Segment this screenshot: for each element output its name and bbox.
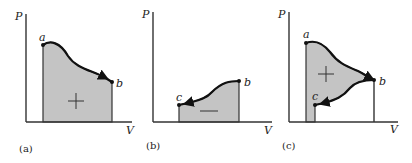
point-c-label: c — [176, 91, 182, 104]
caption-a: (a) — [19, 143, 33, 154]
point-c — [313, 103, 317, 107]
panel-a: P V a b (a) — [14, 10, 135, 154]
panel-b: P V c b (b) — [141, 8, 273, 151]
caption-c: (c) — [282, 140, 296, 151]
point-b-label: b — [244, 76, 251, 89]
point-a — [304, 41, 308, 45]
panel-c: P V a b c (c) — [277, 8, 399, 151]
p-axis-label: P — [141, 8, 150, 21]
point-b — [237, 79, 241, 83]
p-axis-label: P — [14, 10, 23, 23]
point-a-label: a — [39, 31, 46, 44]
caption-b: (b) — [146, 140, 160, 151]
point-b — [110, 80, 114, 84]
point-a-label: a — [303, 28, 310, 41]
p-axis-label: P — [277, 8, 286, 21]
point-b-label: b — [116, 77, 123, 90]
point-b — [372, 78, 376, 82]
point-c-label: c — [312, 90, 318, 103]
pv-diagrams: P V a b (a) P V c b (b) P — [0, 0, 412, 163]
v-axis-label: V — [126, 124, 135, 137]
point-b-label: b — [379, 75, 386, 88]
work-area-a — [43, 43, 112, 122]
v-axis-label: V — [264, 124, 273, 137]
v-axis-label: V — [390, 123, 399, 136]
work-area-b — [179, 81, 239, 122]
